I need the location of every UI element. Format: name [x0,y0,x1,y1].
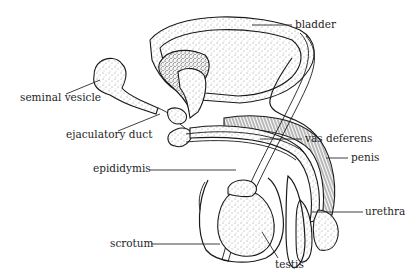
label-penis: penis [351,151,379,163]
bladder-structure [150,17,314,118]
label-epididymis: epididymis [93,162,151,174]
ejaculatory-duct-structure [168,108,187,124]
label-vas-deferens: vas deferens [304,132,372,144]
label-seminal-vesicle: seminal vesicle [20,91,101,103]
label-ejaculatory-duct: ejaculatory duct [66,128,153,140]
label-bladder: bladder [295,18,337,30]
label-scrotum: scrotum [110,237,154,249]
label-testis: testis [275,258,304,270]
label-urethra: urethra [365,205,405,217]
testis-structure [218,180,275,256]
anatomy-diagram: bladder seminal vesicle ejaculatory duct… [0,0,419,280]
